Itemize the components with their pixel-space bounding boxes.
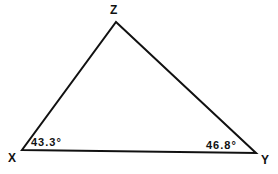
- angle-label-x: 43.3°: [31, 136, 62, 148]
- vertex-label-y: Y: [261, 153, 269, 167]
- vertex-label-z: Z: [110, 3, 117, 17]
- angle-label-y: 46.8°: [206, 139, 237, 151]
- triangle-xyz: [22, 22, 256, 153]
- triangle-diagram: Z X Y 43.3° 46.8°: [0, 0, 278, 174]
- vertex-label-x: X: [8, 151, 16, 165]
